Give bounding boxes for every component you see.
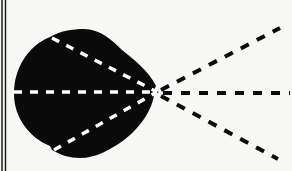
outer-ray-lower [161, 96, 278, 159]
outer-ray-upper [161, 28, 280, 90]
outer-rays-group [161, 28, 290, 159]
diagram-figure [0, 0, 292, 171]
